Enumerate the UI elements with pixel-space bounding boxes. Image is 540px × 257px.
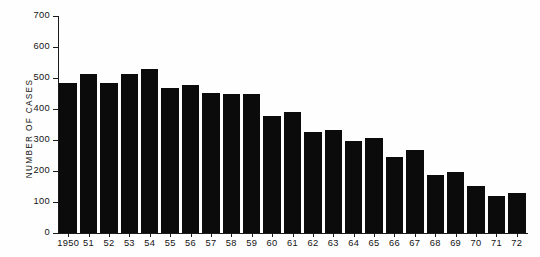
x-axis-tick-mark: [170, 233, 171, 237]
y-axis-tick-label-text: 600: [4, 42, 50, 51]
y-axis-tick-label: 0: [0, 228, 50, 238]
x-axis-tick-mark: [313, 233, 314, 237]
x-axis-tick-mark: [394, 233, 395, 237]
x-axis-tick-mark: [415, 233, 416, 237]
bar: [325, 130, 342, 233]
bar: [141, 69, 158, 233]
x-axis-tick-mark: [191, 233, 192, 237]
bar: [345, 141, 362, 233]
plot-area: [58, 16, 527, 233]
y-axis-tick-label: 100: [0, 197, 50, 207]
y-axis-tick-label: 400: [0, 104, 50, 114]
y-axis-tick-label: 700: [0, 11, 50, 21]
bar: [406, 150, 423, 233]
y-axis-tick-label: 200: [0, 166, 50, 176]
y-axis-tick-label-text: 500: [4, 73, 50, 82]
bar: [467, 186, 484, 233]
bar: [161, 88, 178, 233]
y-axis-tick-label-text: 200: [4, 166, 50, 175]
bar: [365, 138, 382, 233]
bar: [447, 172, 464, 233]
x-axis-tick-mark: [354, 233, 355, 237]
y-axis-tick-mark: [53, 233, 58, 234]
bar: [488, 196, 505, 233]
x-axis-tick-mark: [272, 233, 273, 237]
x-axis-tick-mark: [435, 233, 436, 237]
bar: [263, 116, 280, 233]
x-axis-tick-mark: [496, 233, 497, 237]
x-axis-tick-mark: [456, 233, 457, 237]
y-axis-tick-label: 500: [0, 73, 50, 83]
bar: [508, 193, 525, 233]
x-axis-tick-mark: [252, 233, 253, 237]
y-axis-tick-label: 600: [0, 42, 50, 52]
bar: [59, 83, 76, 233]
x-axis-tick-mark: [129, 233, 130, 237]
y-axis-tick-label-text: 400: [4, 104, 50, 113]
x-axis-tick-label: 72: [499, 238, 535, 248]
y-axis-tick-label-text: 0: [4, 228, 50, 237]
x-axis-tick-mark: [517, 233, 518, 237]
x-axis-tick-mark: [150, 233, 151, 237]
bar-chart-figure: NUMBER OF CASES 0100200300400500600700 1…: [0, 0, 540, 257]
y-axis-title: NUMBER OF CASES: [14, 0, 44, 257]
bar: [284, 112, 301, 233]
bar: [80, 74, 97, 233]
bar: [243, 94, 260, 233]
y-axis-tick-label: 300: [0, 135, 50, 145]
x-axis-tick-mark: [68, 233, 69, 237]
bar: [386, 157, 403, 233]
x-axis-tick-mark: [231, 233, 232, 237]
x-axis-tick-mark: [109, 233, 110, 237]
bar: [182, 85, 199, 233]
y-axis-tick-label-text: 300: [4, 135, 50, 144]
bar: [121, 74, 138, 233]
bar: [223, 94, 240, 233]
y-axis-tick-label-text: 700: [4, 11, 50, 20]
bar: [304, 132, 321, 233]
bar: [427, 175, 444, 233]
x-axis-tick-mark: [293, 233, 294, 237]
x-axis-tick-mark: [333, 233, 334, 237]
x-axis-tick-mark: [374, 233, 375, 237]
y-axis-tick-label-text: 100: [4, 197, 50, 206]
bar: [202, 93, 219, 233]
x-axis-tick-mark: [211, 233, 212, 237]
bar: [100, 83, 117, 233]
x-axis-tick-mark: [476, 233, 477, 237]
x-axis-tick-mark: [89, 233, 90, 237]
